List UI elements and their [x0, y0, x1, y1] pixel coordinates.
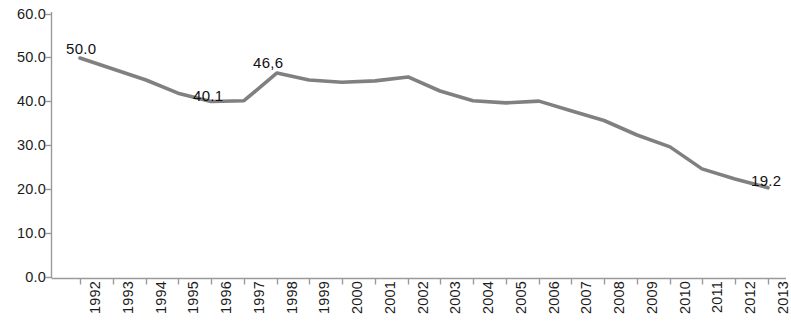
x-axis-tick-label: 1999	[316, 281, 332, 327]
data-point-label: 50.0	[66, 41, 96, 56]
x-axis-tick-label: 2002	[415, 281, 431, 327]
x-axis-tick-label: 2011	[709, 281, 725, 327]
x-axis-tick-label: 1992	[87, 281, 103, 327]
x-axis-tick-label: 2005	[513, 281, 529, 327]
x-axis-tick-label: 2004	[480, 281, 496, 327]
x-axis-tick-label: 2007	[578, 281, 594, 327]
x-axis-tick-label: 2006	[546, 281, 562, 327]
x-axis-tick-label: 1997	[251, 281, 267, 327]
x-axis-tick-label: 2012	[742, 281, 758, 327]
line-chart: 60.050.040.030.020.010.00.0 199219931994…	[0, 0, 791, 327]
x-axis-tick-label: 1995	[185, 281, 201, 327]
x-axis-tick-label: 1998	[284, 281, 300, 327]
x-axis-tick-label: 2009	[644, 281, 660, 327]
x-axis-tick-label: 2013	[775, 281, 791, 327]
x-axis-tick-label: 2003	[447, 281, 463, 327]
x-axis-tick-label: 2008	[611, 281, 627, 327]
x-axis-tick-label: 2010	[677, 281, 693, 327]
x-axis-labels: 1992199319941995199619971998199920002001…	[0, 0, 791, 327]
data-point-label: 46,6	[253, 55, 283, 70]
x-axis-tick-label: 1994	[153, 281, 169, 327]
x-axis-tick-label: 1993	[120, 281, 136, 327]
data-point-label: 19.2	[751, 173, 781, 188]
x-axis-tick-label: 2000	[349, 281, 365, 327]
x-axis-tick-label: 2001	[382, 281, 398, 327]
data-point-label: 40.1	[193, 88, 223, 103]
x-axis-tick-label: 1996	[218, 281, 234, 327]
